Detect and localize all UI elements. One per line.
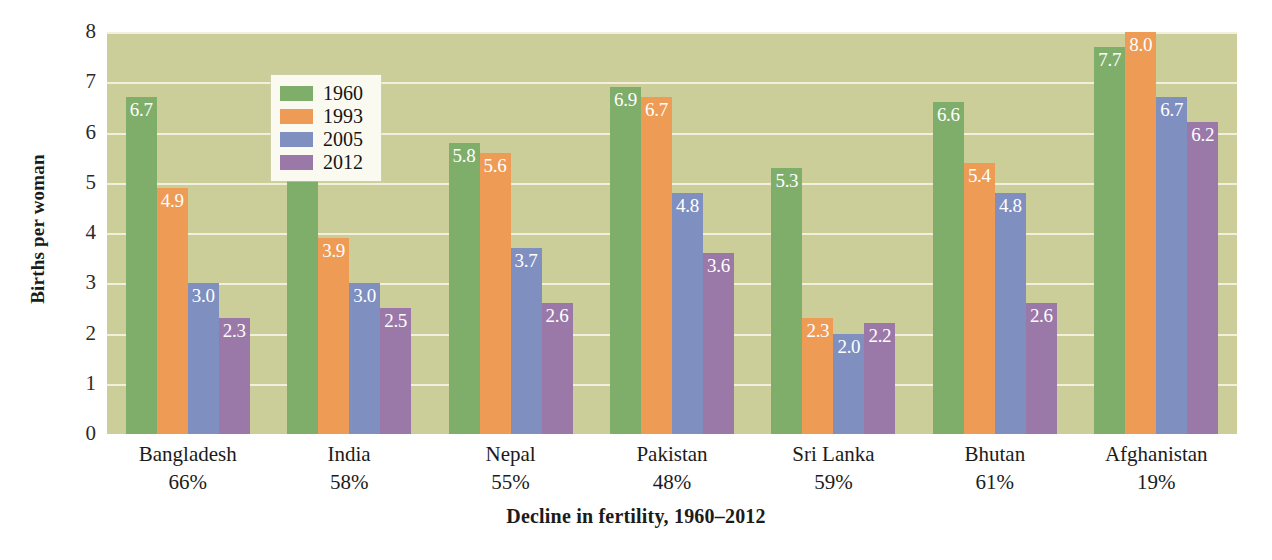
legend-item[interactable]: 2012 [280,151,373,173]
bar[interactable]: 2.5 [380,308,411,434]
bar-value-label: 6.6 [933,105,964,126]
bar-value-label: 2.5 [380,311,411,332]
fertility-bar-chart: Births per woman 876543210 6.74.93.02.35… [0,0,1272,560]
x-axis-category-name: Nepal [430,440,591,468]
bar-value-label: 5.8 [449,146,480,167]
bar[interactable]: 7.7 [1094,47,1125,434]
x-axis-category: Pakistan48% [591,440,752,497]
bar[interactable]: 6.2 [1187,122,1218,434]
legend-item[interactable]: 1993 [280,105,373,127]
x-axis-category-name: Bhutan [914,440,1075,468]
bar-value-label: 4.8 [995,196,1026,217]
x-axis-category-percent: 19% [1076,468,1237,496]
bar-value-label: 4.9 [157,191,188,212]
bar[interactable]: 2.6 [542,303,573,434]
bar-value-label: 2.6 [542,306,573,327]
legend-label: 1960 [323,83,363,103]
bar-value-label: 6.7 [1156,100,1187,121]
x-axis-category: Sri Lanka59% [753,440,914,497]
bar-value-label: 7.7 [1094,50,1125,71]
legend-swatch-icon [280,109,313,124]
x-axis-category-name: India [268,440,429,468]
bar[interactable]: 6.7 [641,97,672,434]
x-axis-category-percent: 59% [753,468,914,496]
bar[interactable]: 5.9 [287,138,318,434]
x-axis-category: Nepal55% [430,440,591,497]
bar-value-label: 2.2 [864,326,895,347]
legend-swatch-icon [280,132,313,147]
y-tick-label: 4 [62,220,96,245]
bar-value-label: 5.4 [964,166,995,187]
legend-label: 1993 [323,106,363,126]
bar-value-label: 6.2 [1187,125,1218,146]
bar[interactable]: 2.2 [864,323,895,434]
bar[interactable]: 3.7 [511,248,542,434]
bar[interactable]: 6.7 [126,97,157,434]
bar[interactable]: 8.0 [1125,32,1156,434]
y-axis-title: Births per woman [27,69,49,389]
x-axis-category-percent: 61% [914,468,1075,496]
bar[interactable]: 6.6 [933,102,964,434]
bar-value-label: 8.0 [1125,35,1156,56]
bar-value-label: 6.9 [610,90,641,111]
x-axis-category-percent: 48% [591,468,752,496]
y-axis-tick-labels: 876543210 [62,32,96,434]
x-axis-category: India58% [268,440,429,497]
bar[interactable]: 3.9 [318,238,349,434]
y-tick-label: 1 [62,371,96,396]
bar[interactable]: 4.9 [157,188,188,434]
plot-area: 6.74.93.02.35.93.93.02.55.85.63.72.66.96… [107,32,1237,434]
bar[interactable]: 2.0 [833,334,864,435]
legend: 1960199320052012 [271,75,381,181]
bar-value-label: 3.7 [511,251,542,272]
x-axis-category: Afghanistan19% [1076,440,1237,497]
y-tick-label: 0 [62,421,96,446]
bar-group: 7.78.06.76.2 [1076,32,1237,434]
bar[interactable]: 5.4 [964,163,995,434]
bar[interactable]: 4.8 [672,193,703,434]
x-axis-category: Bhutan61% [914,440,1075,497]
bar[interactable]: 3.6 [703,253,734,434]
bar-value-label: 6.7 [126,100,157,121]
bar-value-label: 2.3 [802,321,833,342]
bar-value-label: 5.6 [480,156,511,177]
bar[interactable]: 2.6 [1026,303,1057,434]
bar[interactable]: 5.6 [480,153,511,434]
bar[interactable]: 6.9 [610,87,641,434]
bar[interactable]: 6.7 [1156,97,1187,434]
legend-label: 2005 [323,129,363,149]
bar[interactable]: 3.0 [188,283,219,434]
y-tick-label: 5 [62,170,96,195]
legend-item[interactable]: 2005 [280,128,373,150]
bar[interactable]: 2.3 [219,318,250,434]
legend-label: 2012 [323,152,363,172]
bar-value-label: 3.9 [318,241,349,262]
bar[interactable]: 5.8 [449,143,480,434]
x-axis-category-percent: 66% [107,468,268,496]
bar[interactable]: 3.0 [349,283,380,434]
bar-group: 6.74.93.02.3 [107,32,268,434]
bar-value-label: 2.6 [1026,306,1057,327]
x-axis-category: Bangladesh66% [107,440,268,497]
y-tick-label: 3 [62,270,96,295]
bar-group: 6.96.74.83.6 [591,32,752,434]
x-axis-category-percent: 55% [430,468,591,496]
bar-value-label: 2.0 [833,337,864,358]
x-axis-category-name: Pakistan [591,440,752,468]
bar-value-label: 2.3 [219,321,250,342]
x-axis-category-name: Bangladesh [107,440,268,468]
legend-item[interactable]: 1960 [280,82,373,104]
bar-group: 6.65.44.82.6 [914,32,1075,434]
bar-value-label: 6.7 [641,100,672,121]
x-axis-category-name: Sri Lanka [753,440,914,468]
x-axis-tick-labels: Bangladesh66%India58%Nepal55%Pakistan48%… [107,440,1237,502]
y-tick-label: 7 [62,69,96,94]
bar[interactable]: 5.3 [771,168,802,434]
x-axis-category-percent: 58% [268,468,429,496]
x-axis-title: Decline in fertility, 1960–2012 [0,505,1272,528]
bar[interactable]: 4.8 [995,193,1026,434]
bar-value-label: 4.8 [672,196,703,217]
bar[interactable]: 2.3 [802,318,833,434]
y-tick-label: 2 [62,321,96,346]
bar-value-label: 3.0 [188,286,219,307]
